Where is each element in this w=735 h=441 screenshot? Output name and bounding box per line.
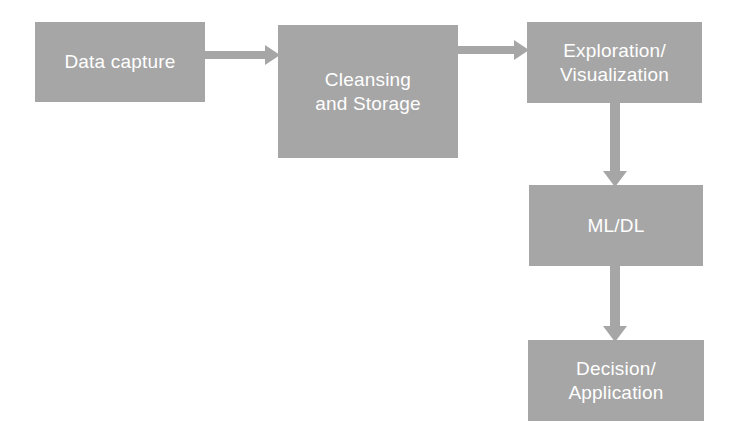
flowchart-diagram: Data capture Cleansing and Storage Explo… [0, 0, 735, 441]
arrow-mldl-to-decision-icon [601, 263, 629, 343]
flow-node-cleansing-and-storage[interactable]: Cleansing and Storage [278, 25, 458, 158]
arrow-capture-to-cleansing-icon [203, 42, 281, 68]
flow-node-cleansing-and-storage-label: Cleansing and Storage [315, 68, 421, 116]
flow-node-data-capture[interactable]: Data capture [35, 22, 205, 102]
arrow-cleansing-to-exploration-icon [456, 37, 530, 63]
flow-node-ml-dl-label: ML/DL [588, 214, 645, 238]
arrow-exploration-to-mldl-icon [601, 101, 629, 188]
flow-node-decision-application-label: Decision/ Application [568, 357, 663, 405]
flow-node-exploration-visualization[interactable]: Exploration/ Visualization [527, 22, 702, 103]
flow-node-decision-application[interactable]: Decision/ Application [528, 340, 704, 421]
flow-node-ml-dl[interactable]: ML/DL [529, 185, 703, 266]
flow-node-data-capture-label: Data capture [64, 50, 175, 74]
flow-node-exploration-visualization-label: Exploration/ Visualization [560, 39, 669, 87]
